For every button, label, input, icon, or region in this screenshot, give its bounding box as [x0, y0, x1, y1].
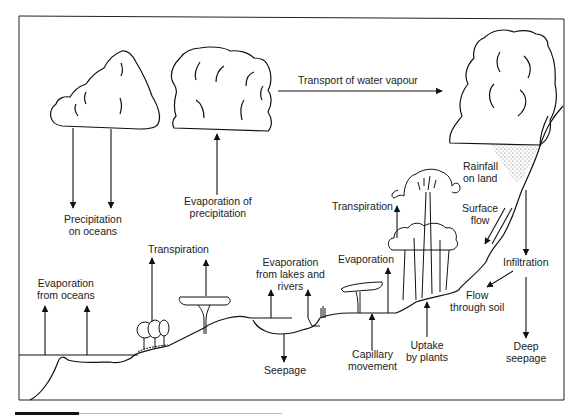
label-line: on oceans: [64, 225, 122, 237]
label-deep-seepage: Deep seepage: [506, 340, 546, 364]
label-capillary-movement: Capillary movement: [348, 348, 397, 372]
label-line: rivers: [256, 280, 325, 292]
label-rainfall-on-land: Rainfall on land: [463, 160, 498, 184]
label-surface-flow: Surface flow: [462, 202, 498, 226]
label-line: Capillary: [348, 348, 397, 360]
ground-profile: [19, 288, 460, 400]
label-flow-through-soil: Flow through soil: [450, 289, 504, 313]
forest-trees-icon: [388, 169, 460, 300]
label-infiltration: Infiltration: [503, 256, 549, 268]
label-line: through soil: [450, 301, 504, 313]
label-line: Uptake: [406, 339, 448, 351]
label-line: seepage: [506, 352, 546, 364]
label-line: movement: [348, 360, 397, 372]
label-transpiration-left: Transpiration: [148, 243, 209, 255]
label-evaporation-from-oceans: Evaporation from oceans: [37, 277, 95, 301]
label-precipitation-on-oceans: Precipitation on oceans: [64, 213, 122, 237]
acacia-tree-left-icon: [179, 297, 230, 334]
label-line: by plants: [406, 351, 448, 363]
label-line: on land: [463, 172, 498, 184]
caption-rule: [79, 413, 282, 414]
label-line: from oceans: [37, 289, 95, 301]
acacia-tree-mid-icon: [341, 282, 382, 313]
ocean-cloud-icon: [51, 51, 160, 129]
label-line: Surface: [462, 202, 498, 214]
label-evaporation-from-lakes: Evaporation from lakes and rivers: [256, 256, 325, 292]
label-line: Evaporation: [256, 256, 325, 268]
label-evaporation-of-precipitation: Evaporation of precipitation: [184, 195, 252, 219]
label-seepage: Seepage: [264, 364, 306, 376]
evaporation-cloud-icon: [171, 47, 271, 131]
land-rain-cloud-icon: [450, 30, 557, 145]
label-line: precipitation: [184, 207, 252, 219]
label-line: Rainfall: [463, 160, 498, 172]
label-line: Evaporation of: [184, 195, 252, 207]
flow-soil-arrow: [487, 271, 513, 287]
label-line: Precipitation: [64, 213, 122, 225]
label-line: Evaporation: [37, 277, 95, 289]
label-line: Deep: [506, 340, 546, 352]
label-line: from lakes and: [256, 268, 325, 280]
label-transport-water-vapour: Transport of water vapour: [298, 74, 418, 86]
label-uptake-by-plants: Uptake by plants: [406, 339, 448, 363]
label-transpiration-right: Transpiration: [332, 200, 393, 212]
label-line: flow: [462, 214, 498, 226]
label-evaporation-mid: Evaporation: [338, 253, 394, 265]
label-line: Flow: [450, 289, 504, 301]
